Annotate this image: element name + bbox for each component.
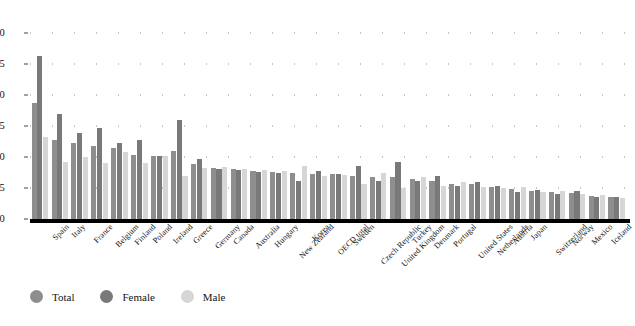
bar-group — [547, 33, 567, 219]
bar-female — [435, 176, 440, 219]
bar-group — [169, 33, 189, 219]
bar-male — [43, 137, 48, 219]
bar-male — [282, 171, 287, 219]
bar-total — [429, 181, 434, 219]
bar-female — [555, 194, 560, 219]
bar-group — [448, 33, 468, 219]
bar-group — [487, 33, 507, 219]
bar-total — [390, 177, 395, 219]
bar-total — [529, 191, 534, 219]
bar-female — [415, 181, 420, 219]
bar-male — [620, 198, 625, 219]
bar-female — [236, 170, 241, 219]
bar-female — [256, 172, 261, 219]
bar-group — [408, 33, 428, 219]
legend-item[interactable]: Male — [181, 290, 226, 303]
bar-male — [163, 156, 168, 219]
bar-female — [216, 169, 221, 219]
bar-group — [308, 33, 328, 219]
bar-female — [376, 181, 381, 219]
bar-group — [30, 33, 50, 219]
bar-total — [151, 156, 156, 219]
bar-group — [587, 33, 607, 219]
bar-male — [540, 192, 545, 219]
bar-total — [231, 169, 236, 219]
bar-total — [469, 184, 474, 219]
bar-female — [475, 182, 480, 219]
bar-male — [521, 187, 526, 219]
bar-female — [614, 197, 619, 219]
bar-total — [370, 177, 375, 219]
bar-male — [441, 186, 446, 219]
bar-group — [607, 33, 627, 219]
x-axis-label: France — [92, 223, 114, 245]
x-axis-label: Spain — [52, 223, 72, 243]
bar-male — [580, 194, 585, 219]
bar-groups — [30, 33, 628, 219]
bar-male — [461, 182, 466, 219]
bar-group — [90, 33, 110, 219]
bar-total — [270, 172, 275, 219]
y-axis-tick-mark — [24, 95, 28, 96]
y-axis-tick-label: 20 — [0, 90, 5, 101]
bar-male — [123, 152, 128, 219]
bar-total — [52, 140, 57, 219]
bar-male — [202, 168, 207, 219]
bar-total — [350, 176, 355, 219]
bar-female — [594, 197, 599, 219]
bar-total — [330, 174, 335, 219]
bar-total — [111, 148, 116, 219]
bar-female — [574, 191, 579, 219]
x-axis-label: Sweden — [352, 223, 377, 248]
bar-group — [269, 33, 289, 219]
y-axis-tick-label: 25 — [0, 59, 5, 70]
bar-total — [489, 187, 494, 219]
bar-male — [103, 163, 108, 219]
bar-female — [296, 181, 301, 219]
y-axis-tick-label: 5 — [0, 183, 5, 194]
bar-female — [157, 156, 162, 219]
bar-female — [316, 171, 321, 219]
bar-total — [290, 173, 295, 220]
y-axis-tick-mark — [24, 126, 28, 127]
plot-area — [30, 33, 628, 219]
legend-label: Female — [122, 291, 154, 303]
bar-total — [310, 174, 315, 219]
bar-male — [63, 162, 68, 219]
bar-male — [481, 187, 486, 219]
x-axis-label: Ireland — [172, 223, 195, 246]
y-axis-tick-mark — [24, 157, 28, 158]
bar-male — [401, 188, 406, 219]
legend-item[interactable]: Total — [30, 290, 74, 303]
bar-male — [361, 184, 366, 219]
legend-item[interactable]: Female — [100, 290, 154, 303]
bar-total — [569, 193, 574, 219]
bar-female — [535, 190, 540, 219]
bar-female — [515, 192, 520, 219]
bar-group — [348, 33, 368, 219]
bar-group — [289, 33, 309, 219]
y-axis-tick-mark — [24, 219, 28, 220]
bar-male — [302, 166, 307, 219]
bar-group — [428, 33, 448, 219]
bar-total — [191, 164, 196, 219]
bar-total — [509, 189, 514, 219]
bar-chart: 051015202530 SpainItalyFranceBelgiumFinl… — [0, 0, 635, 326]
bar-total — [608, 197, 613, 219]
bar-total — [71, 143, 76, 219]
bar-group — [388, 33, 408, 219]
bar-male — [262, 170, 267, 219]
y-axis-tick-mark — [24, 188, 28, 189]
bar-female — [495, 186, 500, 219]
bar-group — [527, 33, 547, 219]
bar-total — [32, 103, 37, 219]
bar-male — [342, 175, 347, 219]
bar-group — [507, 33, 527, 219]
bar-male — [242, 169, 247, 219]
y-axis-tick-label: 15 — [0, 121, 5, 132]
bar-group — [50, 33, 70, 219]
bar-female — [117, 143, 122, 219]
bar-female — [57, 114, 62, 219]
bar-total — [410, 179, 415, 219]
bar-group — [189, 33, 209, 219]
